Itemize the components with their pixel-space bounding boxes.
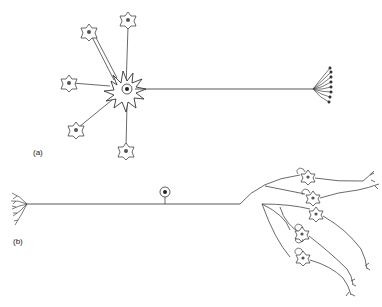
neuron-soma [160,187,170,204]
postsynaptic-neuron [301,170,375,185]
presynaptic-neuron [120,12,136,29]
panel-b-divergence [11,168,379,296]
postsynaptic-neuron-soma [104,71,146,112]
presynaptic-neuron [61,75,77,92]
presynaptic-neuron [81,24,97,41]
dendrites [11,193,27,225]
neuron-diagram [0,0,382,307]
panel-label-a: (a) [33,148,43,157]
postsynaptic-neuron [309,207,370,270]
axon-branches [240,175,310,257]
panel-label-b: (b) [13,237,23,246]
presynaptic-neuron [118,143,134,160]
axon-terminal-arbor [313,67,332,103]
postsynaptic-neuron [306,184,379,206]
postsynaptic-neuron [296,251,355,296]
panel-a-convergence [61,12,332,160]
